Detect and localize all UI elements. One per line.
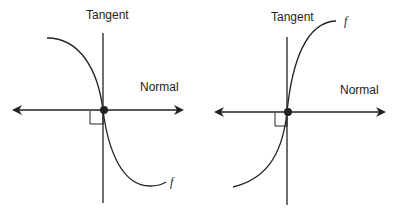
- left-tangent-label: Tangent: [86, 8, 129, 22]
- right-normal-label: Normal: [340, 83, 379, 97]
- left-diagram: Tangent Normal f: [14, 8, 182, 203]
- right-curve-f: [233, 21, 336, 187]
- left-right-angle-marker: [90, 111, 103, 124]
- left-tangency-point: [100, 106, 108, 114]
- right-tangent-label: Tangent: [271, 10, 314, 24]
- tangent-normal-diagrams: Tangent Normal f Tangent Normal f: [0, 0, 393, 208]
- left-normal-label: Normal: [140, 80, 179, 94]
- right-function-label: f: [344, 14, 349, 28]
- right-diagram: Tangent Normal f: [216, 10, 384, 205]
- left-function-label: f: [170, 175, 175, 189]
- right-tangency-point: [284, 108, 292, 116]
